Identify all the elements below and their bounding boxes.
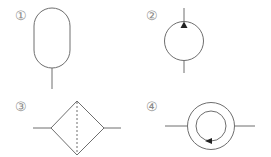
pump-triangle-icon — [181, 22, 188, 29]
symbol-diagram: ① ② ③ ④ — [0, 0, 271, 157]
rotation-arrow-icon — [205, 138, 212, 144]
label-symbol-1: ① — [15, 9, 27, 22]
label-symbol-4: ④ — [146, 100, 158, 113]
label-symbol-3: ③ — [15, 100, 27, 113]
symbols-svg — [0, 0, 271, 157]
pump-symbol — [165, 8, 204, 73]
accumulator-body — [34, 8, 70, 68]
label-symbol-2: ② — [146, 9, 158, 22]
filter-symbol — [33, 101, 121, 155]
accumulator-symbol — [34, 8, 70, 89]
flow-meter-symbol — [165, 103, 255, 150]
inner-circle — [196, 111, 226, 141]
